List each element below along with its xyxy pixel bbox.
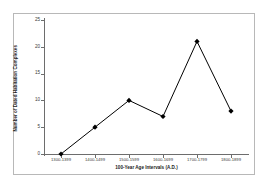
y-axis-title: Number of Dated Habitation Complexes [14, 28, 19, 148]
data-series [0, 0, 269, 188]
series-markers [58, 39, 233, 157]
data-point-marker [228, 109, 233, 114]
data-point-marker [160, 114, 165, 119]
chart-figure: 0510152025 1300-13991400-14991500-159916… [0, 0, 269, 188]
data-point-marker [194, 39, 199, 44]
x-axis-title: 100-Year Age Intervals (A.D.) [44, 166, 249, 171]
series-polyline [61, 41, 231, 154]
